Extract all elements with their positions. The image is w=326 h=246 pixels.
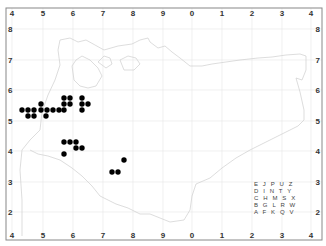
x-tick-label: 8 (131, 231, 136, 240)
record-dot (38, 107, 43, 112)
distribution-map: 45678901234 45678901234 8765432 8765432 … (0, 0, 326, 246)
x-tick-label: 1 (220, 231, 225, 240)
x-tick-label: 7 (101, 9, 106, 18)
y-tick-label: 8 (8, 25, 13, 34)
y-tick-label: 7 (316, 56, 321, 65)
record-dot (25, 107, 30, 112)
legend-row-1: E J P U Z (254, 181, 294, 187)
record-dot (25, 113, 30, 118)
x-tick-label: 8 (131, 9, 136, 18)
y-tick-label: 7 (8, 56, 13, 65)
record-dot (43, 113, 48, 118)
x-tick-label: 3 (280, 9, 285, 18)
record-dot (61, 101, 66, 106)
legend-row-2: D I N T Y (254, 188, 293, 194)
record-dot (79, 101, 84, 106)
x-tick-label: 4 (10, 9, 15, 18)
x-tick-label: 0 (190, 9, 195, 18)
record-dot (61, 151, 66, 156)
x-tick-label: 6 (71, 231, 76, 240)
record-dot (79, 95, 84, 100)
x-tick-label: 7 (101, 231, 106, 240)
y-tick-label: 2 (316, 208, 321, 217)
record-dot (109, 169, 114, 174)
x-tick-label: 9 (161, 9, 166, 18)
y-tick-label: 2 (8, 208, 13, 217)
x-tick-label: 4 (309, 231, 314, 240)
record-dot (79, 107, 84, 112)
record-dot (67, 95, 72, 100)
record-dot (73, 139, 78, 144)
record-dot (56, 107, 61, 112)
record-dot (44, 107, 49, 112)
x-tick-label: 5 (41, 231, 46, 240)
x-tick-label: 2 (250, 231, 255, 240)
y-tick-label: 6 (316, 86, 321, 95)
record-dot (50, 107, 55, 112)
record-dot (67, 139, 72, 144)
x-tick-label: 1 (220, 9, 225, 18)
record-dot (73, 145, 78, 150)
record-dot (79, 145, 84, 150)
x-tick-label: 4 (10, 231, 15, 240)
legend-row-5: A F K Q V (254, 209, 295, 215)
record-dot (115, 169, 120, 174)
y-tick-label: 5 (8, 117, 13, 126)
record-dot (61, 95, 66, 100)
tetrad-legend: E J P U Z D I N T Y C H M S X B G L R W … (254, 181, 297, 215)
record-dot (85, 101, 90, 106)
y-tick-label: 5 (316, 117, 321, 126)
x-tick-label: 2 (250, 9, 255, 18)
y-tick-label: 8 (316, 25, 321, 34)
y-tick-label: 3 (8, 178, 13, 187)
record-dot (61, 139, 66, 144)
x-tick-label: 4 (309, 9, 314, 18)
legend-row-4: B G L R W (254, 202, 297, 208)
y-tick-label: 4 (316, 147, 321, 156)
record-dot (31, 107, 36, 112)
x-tick-label: 0 (190, 231, 195, 240)
y-tick-label: 6 (8, 86, 13, 95)
legend-row-3: C H M S X (254, 195, 297, 201)
x-tick-label: 5 (41, 9, 46, 18)
x-tick-label: 9 (161, 231, 166, 240)
x-tick-label: 6 (71, 9, 76, 18)
record-dot (31, 113, 36, 118)
record-dot (121, 157, 126, 162)
y-tick-label: 3 (316, 178, 321, 187)
y-tick-label: 4 (8, 147, 13, 156)
record-dot (19, 107, 24, 112)
record-dot (38, 101, 43, 106)
record-dot (67, 101, 72, 106)
x-tick-label: 3 (280, 231, 285, 240)
record-dot (61, 107, 66, 112)
